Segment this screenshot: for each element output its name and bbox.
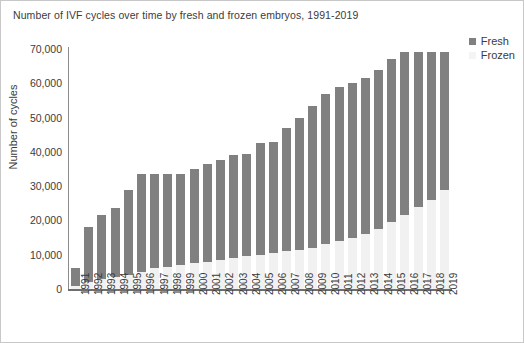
y-axis-tick-label: 40,000 <box>30 146 62 158</box>
bar-column[interactable] <box>440 52 449 289</box>
bar-segment-fresh[interactable] <box>97 215 106 278</box>
bar-segment-fresh[interactable] <box>190 169 199 263</box>
bar-segment-fresh[interactable] <box>269 142 278 253</box>
x-axis-tick-label: 2009 <box>317 273 328 295</box>
bar-segment-fresh[interactable] <box>137 174 146 272</box>
bar-segment-frozen[interactable] <box>71 286 80 289</box>
bar-segment-fresh[interactable] <box>282 128 291 251</box>
legend-label-frozen: Frozen <box>481 49 515 61</box>
bar-segment-fresh[interactable] <box>163 174 172 267</box>
x-axis-tick-label: 2003 <box>238 273 249 295</box>
bar-column[interactable] <box>190 169 199 289</box>
x-axis-tick-label: 1995 <box>132 273 143 295</box>
x-axis-tick-label: 2010 <box>330 273 341 295</box>
bar-column[interactable] <box>282 128 291 289</box>
x-axis-tick-label: 2008 <box>304 273 315 295</box>
bar-segment-fresh[interactable] <box>374 70 383 229</box>
bar-segment-fresh[interactable] <box>256 143 265 254</box>
x-axis-tick-label: 2006 <box>277 273 288 295</box>
bar-column[interactable] <box>203 164 212 289</box>
bar-column[interactable] <box>295 118 304 289</box>
bar-column[interactable] <box>216 160 225 289</box>
x-axis-tick-label: 2007 <box>290 273 301 295</box>
chart-legend: Fresh Frozen <box>469 34 515 62</box>
x-axis-tick-label: 1998 <box>172 273 183 295</box>
x-axis-tick-label: 2001 <box>211 273 222 295</box>
x-axis-tick-label: 1994 <box>119 273 130 295</box>
y-axis-tick-label: 20,000 <box>30 214 62 226</box>
bar-column[interactable] <box>427 52 436 289</box>
bar-column[interactable] <box>400 52 409 289</box>
x-axis-tick-label: 1996 <box>145 273 156 295</box>
x-axis-tick-label: 2017 <box>422 273 433 295</box>
y-axis-ticks: 70,00060,00050,00040,00030,00020,00010,0… <box>1 41 65 297</box>
bar-column[interactable] <box>361 78 370 289</box>
bar-column[interactable] <box>71 268 80 289</box>
bar-segment-fresh[interactable] <box>440 52 449 189</box>
bar-segment-fresh[interactable] <box>321 94 330 245</box>
bar-column[interactable] <box>242 154 251 289</box>
chart-title: Number of IVF cycles over time by fresh … <box>13 9 358 21</box>
bar-segment-fresh[interactable] <box>308 106 317 248</box>
bar-segment-fresh[interactable] <box>229 155 238 258</box>
bar-column[interactable] <box>387 59 396 289</box>
x-axis-tick-label: 2018 <box>435 273 446 295</box>
x-axis-tick-label: 1993 <box>106 273 117 295</box>
bar-segment-fresh[interactable] <box>242 154 251 257</box>
bar-column[interactable] <box>335 87 344 289</box>
x-axis-tick-label: 2015 <box>396 273 407 295</box>
x-axis-tick-label: 2011 <box>343 273 354 295</box>
bar-segment-fresh[interactable] <box>71 268 80 285</box>
bar-segment-fresh[interactable] <box>348 83 357 237</box>
bar-column[interactable] <box>308 106 317 289</box>
x-axis-tick-label: 2005 <box>264 273 275 295</box>
bar-segment-fresh[interactable] <box>361 78 370 234</box>
x-axis-tick-label: 2012 <box>356 273 367 295</box>
bar-segment-fresh[interactable] <box>427 52 436 199</box>
legend-item-fresh[interactable]: Fresh <box>469 34 515 48</box>
legend-swatch-frozen <box>469 52 476 59</box>
y-axis-tick-label: 70,000 <box>30 43 62 55</box>
bar-segment-fresh[interactable] <box>124 190 133 276</box>
legend-label-fresh: Fresh <box>481 35 509 47</box>
y-axis-tick-label: 0 <box>56 283 62 295</box>
bar-segment-fresh[interactable] <box>176 174 185 265</box>
x-axis-tick-label: 2004 <box>251 273 262 295</box>
bar-segment-fresh[interactable] <box>150 174 159 268</box>
bar-segment-fresh[interactable] <box>203 164 212 262</box>
bar-column[interactable] <box>229 155 238 289</box>
x-axis-ticks: 1991199219931994199519961997199819992000… <box>69 293 451 341</box>
bar-segment-fresh[interactable] <box>335 87 344 241</box>
bar-segment-fresh[interactable] <box>414 52 423 206</box>
y-axis-tick-label: 10,000 <box>30 249 62 261</box>
x-axis-tick-label: 2016 <box>409 273 420 295</box>
y-axis-tick-label: 30,000 <box>30 180 62 192</box>
x-axis-tick-label: 2019 <box>448 273 459 295</box>
bar-segment-fresh[interactable] <box>295 118 304 250</box>
y-axis-tick-label: 60,000 <box>30 77 62 89</box>
x-axis-tick-label: 1997 <box>159 273 170 295</box>
plot-area <box>69 49 451 289</box>
x-axis-tick-label: 2002 <box>224 273 235 295</box>
bar-column[interactable] <box>269 142 278 289</box>
chart-frame: Number of IVF cycles over time by fresh … <box>0 0 524 343</box>
bar-column[interactable] <box>348 83 357 289</box>
x-axis-tick-label: 2014 <box>383 273 394 295</box>
x-axis-tick-label: 1992 <box>93 273 104 295</box>
x-axis-tick-label: 2000 <box>198 273 209 295</box>
bar-column[interactable] <box>321 94 330 289</box>
bar-segment-fresh[interactable] <box>111 208 120 277</box>
y-axis-tick-label: 50,000 <box>30 112 62 124</box>
bar-column[interactable] <box>374 70 383 289</box>
bar-segment-fresh[interactable] <box>216 160 225 259</box>
x-axis-tick-label: 1999 <box>185 273 196 295</box>
bar-segment-fresh[interactable] <box>387 59 396 222</box>
bar-column[interactable] <box>414 52 423 289</box>
legend-item-frozen[interactable]: Frozen <box>469 48 515 62</box>
bar-column[interactable] <box>256 143 265 289</box>
x-axis-tick-label: 2013 <box>369 273 380 295</box>
bar-segment-fresh[interactable] <box>400 52 409 215</box>
legend-swatch-fresh <box>469 38 476 45</box>
x-axis-tick-label: 1991 <box>80 273 91 295</box>
